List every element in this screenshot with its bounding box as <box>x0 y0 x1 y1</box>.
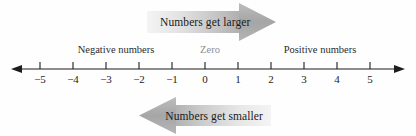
tick-label-4: 4 <box>334 73 340 85</box>
numbers-get-larger-label: Numbers get larger <box>147 3 276 41</box>
caption-zero: Zero <box>200 44 220 55</box>
tick-label-neg5: −5 <box>34 73 46 85</box>
tick-label-neg1: −1 <box>166 73 178 85</box>
numbers-get-larger-arrow: Numbers get larger <box>147 3 276 41</box>
tick-label-zero: 0 <box>202 73 208 85</box>
tick-label-2: 2 <box>268 73 274 85</box>
tick-label-neg3: −3 <box>100 73 112 85</box>
caption-negative-numbers: Negative numbers <box>78 44 155 55</box>
numbers-get-smaller-arrow: Numbers get smaller <box>139 97 271 134</box>
tick-label-neg2: −2 <box>133 73 145 85</box>
tick-label-neg4: −4 <box>67 73 79 85</box>
number-line-figure: Numbers get larger <box>0 0 416 136</box>
caption-positive-numbers: Positive numbers <box>284 44 357 55</box>
tick-label-5: 5 <box>367 73 373 85</box>
tick-label-3: 3 <box>301 73 307 85</box>
numbers-get-smaller-label: Numbers get smaller <box>139 97 271 134</box>
tick-label-1: 1 <box>235 73 241 85</box>
